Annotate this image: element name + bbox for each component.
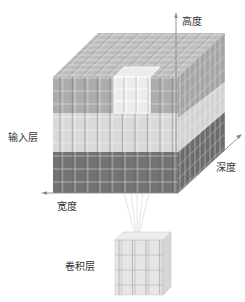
- width-axis-arrow: [41, 191, 47, 194]
- height-axis-arrow: [174, 12, 177, 18]
- width-axis-label: 宽度: [57, 198, 77, 213]
- conv-layer-label: 卷积层: [65, 258, 95, 273]
- cnn-input-volume-diagram: [0, 0, 245, 302]
- receptive-field-front: [114, 77, 150, 113]
- input-layer-label: 输入层: [8, 129, 38, 144]
- input-volume-front-face: [53, 77, 178, 193]
- depth-axis-label: 深度: [216, 159, 236, 174]
- conv-layer-cube: [115, 232, 171, 295]
- height-axis-label: 高度: [182, 13, 202, 28]
